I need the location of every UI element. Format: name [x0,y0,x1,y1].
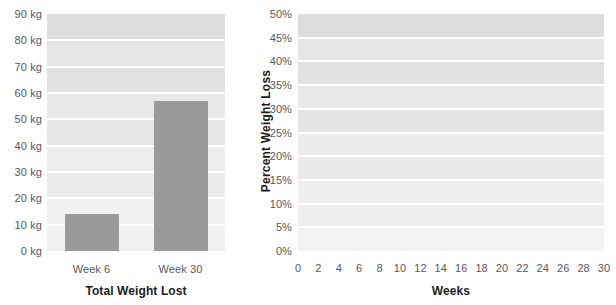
line-chart-y-tick-label: 15% [252,174,292,185]
grid-band [298,180,604,204]
gridline [298,179,604,181]
gridline [298,60,604,62]
bar-chart-y-tick-label: 80 kg [0,35,42,46]
grid-band [47,40,225,66]
line-chart-y-tick-label: 20% [252,151,292,162]
gridline [298,155,604,157]
bar-chart-y-tick-label: 40 kg [0,140,42,151]
line-chart-y-tick-label: 40% [252,56,292,67]
line-chart-x-tick-label: 30 [598,263,610,274]
bar-chart-y-tick-label: 50 kg [0,114,42,125]
bar [65,214,119,251]
grid-band [298,85,604,109]
line-chart-y-tick-label: 5% [252,222,292,233]
line-chart-x-tick-label: 2 [315,263,321,274]
grid-band [298,14,604,38]
line-chart-x-tick-label: 22 [516,263,528,274]
bar [154,101,208,251]
line-chart-x-tick-label: 28 [577,263,589,274]
line-chart-y-tick-label: 50% [252,9,292,20]
grid-band [298,38,604,62]
line-chart-x-tick-label: 8 [376,263,382,274]
line-chart-y-tick-label: 25% [252,127,292,138]
grid-band [298,156,604,180]
grid-band [298,109,604,133]
bar-chart-category-label: Week 30 [159,264,203,275]
bar-chart-y-tick-label: 0 kg [0,246,42,257]
line-chart-x-tick-label: 26 [557,263,569,274]
grid-band [47,67,225,93]
gridline [298,37,604,39]
line-chart-panel: Percent Weight Loss 0%5%10%15%20%25%30%3… [252,0,616,305]
bar-chart-y-tick-label: 30 kg [0,167,42,178]
line-chart-y-tick-label: 35% [252,80,292,91]
gridline [298,132,604,134]
gridline [298,108,604,110]
bar-chart-axis-title: Total Weight Lost [47,284,225,298]
line-chart-y-tick-label: 0% [252,246,292,257]
line-chart-x-tick-label: 24 [537,263,549,274]
grid-band [298,227,604,251]
bar-chart-y-tick-label: 20 kg [0,193,42,204]
bar-chart-category-label: Week 6 [73,264,111,275]
line-chart-x-tick-label: 16 [455,263,467,274]
dual-chart-figure: 0 kg10 kg20 kg30 kg40 kg50 kg60 kg70 kg8… [0,0,616,305]
bar-chart-panel: 0 kg10 kg20 kg30 kg40 kg50 kg60 kg70 kg8… [0,0,252,305]
line-chart-x-tick-label: 4 [336,263,342,274]
grid-band [298,204,604,228]
gridline [298,203,604,205]
line-chart-y-tick-label: 30% [252,103,292,114]
line-chart-plot-area [298,14,604,251]
bar-chart-y-tick-label: 60 kg [0,88,42,99]
gridline [298,226,604,228]
bar-chart-y-tick-label: 10 kg [0,219,42,230]
line-chart-y-tick-label: 10% [252,198,292,209]
line-chart-x-tick-label: 14 [435,263,447,274]
gridline [47,66,225,68]
gridline [298,84,604,86]
gridline [47,92,225,94]
bar-chart-y-tick-label: 70 kg [0,61,42,72]
grid-band [47,14,225,40]
grid-band [298,133,604,157]
line-chart-y-tick-label: 45% [252,32,292,43]
line-chart-x-tick-label: 18 [475,263,487,274]
line-chart-x-tick-label: 6 [356,263,362,274]
gridline [47,39,225,41]
line-chart-x-tick-label: 0 [295,263,301,274]
line-chart-x-axis-title: Weeks [298,284,604,298]
bar-chart-plot-area [47,14,225,251]
grid-band [298,61,604,85]
line-chart-x-tick-label: 20 [496,263,508,274]
line-chart-x-tick-label: 12 [414,263,426,274]
bar-chart-y-tick-label: 90 kg [0,9,42,20]
line-chart-x-tick-label: 10 [394,263,406,274]
